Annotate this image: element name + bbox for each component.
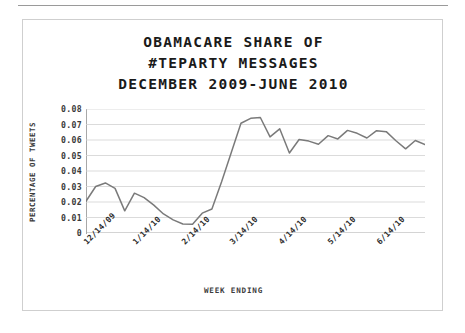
x-axis-tick-labels: 12/14/091/14/102/14/103/14/104/14/105/14… — [86, 236, 425, 286]
x-axis-title: WEEK ENDING — [23, 286, 444, 295]
gridlines — [86, 109, 425, 233]
top-divider-rule — [18, 5, 448, 6]
plot-region: PERCENTAGE OF TWEETS 00.010.020.030.040.… — [86, 109, 425, 235]
chart-container: OBAMACARE SHARE OF #TEPARTY MESSAGES DEC… — [22, 19, 443, 311]
y-axis-tick-label: 0.07 — [61, 120, 82, 130]
y-axis-tick-label: 0.06 — [61, 135, 82, 145]
chart-title: OBAMACARE SHARE OF #TEPARTY MESSAGES DEC… — [23, 32, 444, 95]
y-axis-tick-label: 0.03 — [61, 182, 82, 192]
plot-area — [86, 109, 425, 233]
y-axis-tick-label: 0.08 — [61, 104, 82, 114]
y-axis-title: PERCENTAGE OF TWEETS — [28, 117, 37, 227]
chart-title-line-1: OBAMACARE SHARE OF — [23, 32, 444, 53]
figure-page: OBAMACARE SHARE OF #TEPARTY MESSAGES DEC… — [0, 0, 465, 333]
y-axis-tick-label: 0.02 — [61, 197, 82, 207]
y-axis-tick-label: 0.04 — [61, 166, 82, 176]
line-chart-svg — [86, 109, 425, 233]
y-axis-tick-label: 0 — [77, 228, 82, 238]
chart-title-line-3: DECEMBER 2009-JUNE 2010 — [23, 74, 444, 95]
chart-title-line-2: #TEPARTY MESSAGES — [23, 53, 444, 74]
y-axis-tick-label: 0.01 — [61, 213, 82, 223]
y-axis-tick-label: 0.05 — [61, 151, 82, 161]
